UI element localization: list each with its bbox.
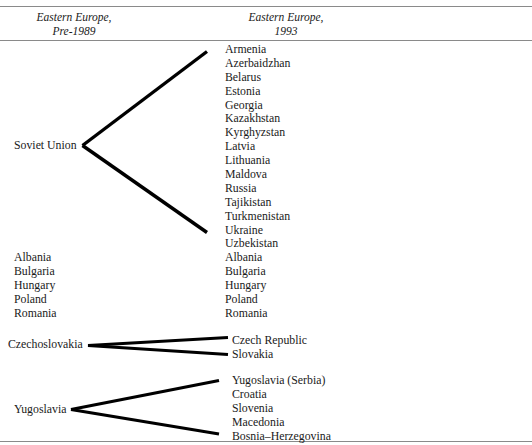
connector-yugoslavia-lower <box>71 410 219 435</box>
list-item: Belarus <box>225 71 291 85</box>
source-node-soviet-union: Soviet Union <box>14 139 77 153</box>
column-heading-right-line2: 1993 <box>222 25 350 39</box>
list-item: Latvia <box>225 140 291 154</box>
connector-soviet-union-upper <box>83 52 208 146</box>
list-item: Czech Republic <box>232 334 307 348</box>
list-item: Bulgaria <box>225 265 268 279</box>
unchanged-list-before: Albania Bulgaria Hungary Poland Romania <box>14 251 57 320</box>
list-item: Ukraine <box>225 224 291 238</box>
list-item: Croatia <box>232 388 331 402</box>
list-item: Estonia <box>225 85 291 99</box>
connector-czechoslovakia-lower <box>88 346 228 355</box>
successor-list-soviet-union: Armenia Azerbaidzhan Belarus Estonia Geo… <box>225 43 291 251</box>
list-item: Lithuania <box>225 154 291 168</box>
source-node-yugoslavia: Yugoslavia <box>14 403 66 417</box>
source-node-czechoslovakia: Czechoslovakia <box>8 338 83 352</box>
list-item: Albania <box>14 251 57 265</box>
list-item: Romania <box>14 307 57 321</box>
list-item: Turkmenistan <box>225 210 291 224</box>
column-heading-left: Eastern Europe, Pre-1989 <box>14 11 134 38</box>
column-heading-left-line1: Eastern Europe, <box>14 11 134 25</box>
list-item: Bulgaria <box>14 265 57 279</box>
successor-list-czechoslovakia: Czech Republic Slovakia <box>232 334 307 362</box>
successor-list-yugoslavia: Yugoslavia (Serbia) Croatia Slovenia Mac… <box>232 374 331 443</box>
list-item: Macedonia <box>232 416 331 430</box>
unchanged-list-after: Albania Bulgaria Hungary Poland Romania <box>225 251 268 320</box>
list-item: Kazakhstan <box>225 112 291 126</box>
list-item: Tajikistan <box>225 196 291 210</box>
list-item: Slovenia <box>232 402 331 416</box>
list-item: Poland <box>225 293 268 307</box>
list-item: Slovakia <box>232 348 307 362</box>
figure-container: Eastern Europe, Pre-1989 Eastern Europe,… <box>0 0 532 445</box>
list-item: Poland <box>14 293 57 307</box>
column-heading-right: Eastern Europe, 1993 <box>222 11 350 38</box>
column-heading-right-line1: Eastern Europe, <box>222 11 350 25</box>
list-item: Bosnia–Herzegovina <box>232 430 331 444</box>
list-item: Maldova <box>225 168 291 182</box>
header-rule <box>0 40 532 41</box>
connector-yugoslavia-upper <box>71 381 219 410</box>
connector-czechoslovakia-upper <box>88 338 228 346</box>
list-item: Albania <box>225 251 268 265</box>
list-item: Armenia <box>225 43 291 57</box>
list-item: Russia <box>225 182 291 196</box>
list-item: Hungary <box>14 279 57 293</box>
list-item: Azerbaidzhan <box>225 57 291 71</box>
column-heading-left-line2: Pre-1989 <box>14 25 134 39</box>
list-item: Hungary <box>225 279 268 293</box>
top-rule <box>0 6 532 7</box>
list-item: Georgia <box>225 99 291 113</box>
list-item: Kyrghyzstan <box>225 126 291 140</box>
list-item: Romania <box>225 307 268 321</box>
connector-soviet-union-lower <box>83 146 208 233</box>
list-item: Yugoslavia (Serbia) <box>232 374 331 388</box>
